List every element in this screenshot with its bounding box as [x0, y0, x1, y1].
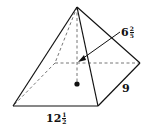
edge-right-base: [98, 63, 140, 106]
length-label: 1212: [46, 110, 67, 126]
width-label: 9: [122, 83, 130, 94]
pyramid-figure: [0, 0, 147, 131]
length-label-whole: 12: [46, 112, 61, 125]
length-label-denominator: 2: [62, 119, 66, 125]
length-label-fraction: 12: [62, 112, 66, 126]
edge-apex-frontright: [77, 7, 98, 106]
width-label-text: 9: [122, 82, 130, 95]
hidden-edge-left-base: [13, 63, 55, 106]
base-center-dot: [74, 81, 79, 86]
height-label-whole: 6: [121, 26, 129, 39]
edge-apex-frontleft: [13, 7, 77, 106]
hidden-edges: [13, 7, 140, 106]
height-label-numerator: 2: [130, 26, 134, 32]
height-arrow: [78, 32, 120, 62]
height-label-denominator: 5: [130, 33, 134, 39]
height-label: 625: [121, 24, 134, 40]
height-label-fraction: 25: [130, 26, 134, 40]
length-label-numerator: 1: [62, 112, 66, 118]
